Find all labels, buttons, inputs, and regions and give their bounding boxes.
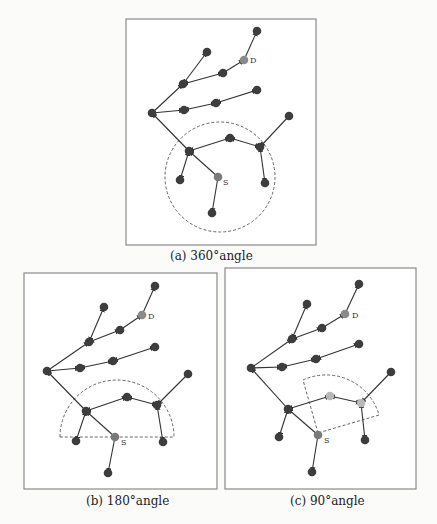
panel-a-frame bbox=[126, 19, 316, 245]
panel-b-source-node bbox=[111, 433, 120, 442]
panel-c-source-node bbox=[314, 431, 323, 440]
panel-b-destination-node bbox=[138, 311, 147, 320]
panel-a-360-degree: D S bbox=[126, 19, 316, 245]
panel-b-caption: (b) 180°angle bbox=[86, 494, 169, 508]
panel-b-label-s: S bbox=[121, 438, 126, 447]
panel-b-frame bbox=[24, 273, 217, 489]
panel-a-label-d: D bbox=[250, 56, 256, 65]
panel-c-frame bbox=[225, 268, 416, 489]
panel-c-90-degree: D S bbox=[225, 268, 416, 489]
panel-a-destination-node bbox=[240, 56, 249, 65]
panel-a-source-node bbox=[214, 173, 223, 182]
panel-c-label-d: D bbox=[352, 311, 358, 320]
panel-b-label-d: D bbox=[148, 312, 154, 321]
panel-a-caption: (a) 360°angle bbox=[170, 249, 253, 263]
panel-c-caption: (c) 90°angle bbox=[290, 494, 365, 508]
panel-c-highlighted-node bbox=[357, 399, 366, 408]
panel-a-label-s: S bbox=[223, 178, 228, 187]
panel-c-destination-node bbox=[341, 310, 350, 319]
panel-b-180-degree: D S bbox=[24, 273, 217, 489]
panel-c-label-s: S bbox=[324, 436, 329, 445]
panel-c-highlighted-node bbox=[326, 392, 335, 401]
